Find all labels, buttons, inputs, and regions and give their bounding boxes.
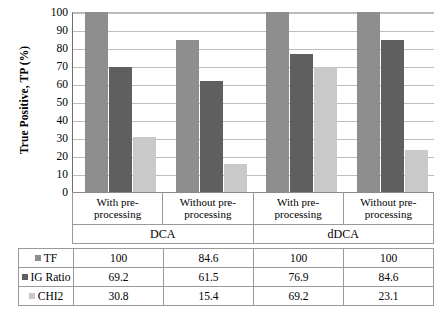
y-tick-label: 20: [38, 151, 68, 162]
legend-entry-tf: TF: [19, 249, 74, 268]
bar-group: [266, 13, 345, 192]
category-label-line: Without pre-: [360, 196, 416, 209]
y-tick-label: 10: [38, 169, 68, 180]
table-cell: 69.2: [74, 268, 164, 287]
table-cell: 15.4: [164, 287, 254, 306]
y-tick-label: 50: [38, 97, 68, 108]
table-cell: 100: [344, 249, 434, 268]
bar-chi2: [224, 164, 247, 192]
y-tick-label: 90: [38, 25, 68, 36]
table-cell: 84.6: [164, 249, 254, 268]
category-label-row: With pre-processingWithout pre-processin…: [73, 192, 433, 224]
table-cell: 23.1: [344, 287, 434, 306]
data-table-body: TF10084.6100100IG Ratio69.261.576.984.6C…: [19, 249, 434, 306]
y-tick-label: 100: [38, 7, 68, 18]
table-row: CHI230.815.469.223.1: [19, 287, 434, 306]
legend-entry-ig-ratio: IG Ratio: [19, 268, 74, 287]
category-label-line: processing: [94, 208, 141, 221]
y-axis-tick-labels: 1009080706050403020100: [38, 0, 68, 200]
y-axis-title-text: True Positive, TP (%): [18, 46, 30, 154]
bar-tf: [266, 12, 289, 192]
bar-ig-ratio: [200, 81, 223, 192]
category-label-line: With pre-: [277, 196, 319, 209]
table-cell: 30.8: [74, 287, 164, 306]
table-cell: 100: [74, 249, 164, 268]
y-tick-label: 0: [38, 187, 68, 198]
category-label-line: Without pre-: [180, 196, 236, 209]
bar-tf: [357, 12, 380, 192]
legend-label: IG Ratio: [31, 271, 71, 283]
y-tick-label: 60: [38, 79, 68, 90]
legend-label: CHI2: [38, 290, 64, 302]
bar-chart-figure: True Positive, TP (%) 100908070605040302…: [0, 0, 447, 313]
legend-entry-chi2: CHI2: [19, 287, 74, 306]
bar-chi2: [405, 150, 428, 192]
bar-chi2: [133, 137, 156, 192]
legend-swatch-icon: [29, 293, 35, 299]
y-tick-label: 70: [38, 61, 68, 72]
group-label-row: DCAdDCA: [73, 224, 433, 244]
legend-swatch-icon: [22, 274, 28, 280]
bar-ig-ratio: [109, 67, 132, 192]
category-label-line: With pre-: [97, 196, 139, 209]
group-label: DCA: [73, 225, 254, 244]
table-row: IG Ratio69.261.576.984.6: [19, 268, 434, 287]
table-row: TF10084.6100100: [19, 249, 434, 268]
category-axis: With pre-processingWithout pre-processin…: [72, 192, 434, 244]
bar-group: [357, 13, 436, 192]
plot-area: [72, 12, 434, 192]
table-cell: 100: [254, 249, 344, 268]
bar-ig-ratio: [290, 54, 313, 192]
bar-chi2: [314, 67, 337, 192]
group-label: dDCA: [254, 225, 434, 244]
y-tick-label: 80: [38, 43, 68, 54]
bar-group: [85, 13, 164, 192]
category-label: Without pre-processing: [344, 192, 433, 224]
category-label-line: processing: [275, 208, 322, 221]
bar-ig-ratio: [381, 40, 404, 192]
category-label-line: processing: [365, 208, 412, 221]
category-label: With pre-processing: [254, 192, 344, 224]
y-axis-title: True Positive, TP (%): [14, 20, 34, 180]
table-cell: 69.2: [254, 287, 344, 306]
table-cell: 76.9: [254, 268, 344, 287]
bar-group: [176, 13, 255, 192]
table-cell: 61.5: [164, 268, 254, 287]
category-label-line: processing: [184, 208, 231, 221]
category-label: Without pre-processing: [163, 192, 253, 224]
bar-tf: [176, 40, 199, 192]
data-table: TF10084.6100100IG Ratio69.261.576.984.6C…: [18, 248, 434, 306]
table-cell: 84.6: [344, 268, 434, 287]
legend-swatch-icon: [35, 255, 41, 261]
category-label: With pre-processing: [73, 192, 163, 224]
y-tick-label: 30: [38, 133, 68, 144]
y-tick-label: 40: [38, 115, 68, 126]
bar-tf: [85, 12, 108, 192]
legend-label: TF: [44, 252, 57, 264]
